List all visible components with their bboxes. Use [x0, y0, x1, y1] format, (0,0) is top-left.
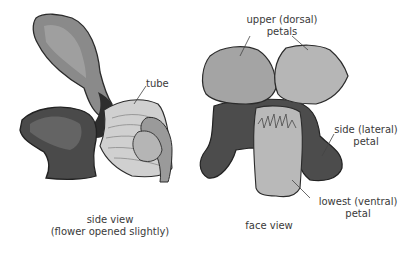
upper-petal-right — [275, 45, 348, 104]
label-upper-line1: upper (dorsal) — [244, 14, 320, 26]
label-lowest-ventral-petal: lowest (ventral) petal — [314, 196, 402, 220]
label-upper-line2: petals — [244, 26, 320, 38]
label-lowest-line1: lowest (ventral) — [314, 196, 402, 208]
caption-side-line2: (flower opened slightly) — [40, 226, 180, 238]
caption-face-line1: face view — [234, 220, 304, 232]
upper-petal-left — [203, 47, 276, 104]
caption-face-view: face view — [234, 220, 304, 232]
label-upper-dorsal-petals: upper (dorsal) petals — [244, 14, 320, 38]
side-view-drawing — [20, 14, 172, 182]
label-side-line2: petal — [328, 136, 404, 148]
label-tube: tube — [146, 78, 169, 90]
label-tube-text: tube — [146, 78, 169, 89]
label-side-line1: side (lateral) — [328, 124, 404, 136]
label-side-lateral-petal: side (lateral) petal — [328, 124, 404, 148]
caption-side-line1: side view — [40, 214, 180, 226]
label-lowest-line2: petal — [314, 208, 402, 220]
caption-side-view: side view (flower opened slightly) — [40, 214, 180, 238]
face-view-drawing — [200, 45, 348, 197]
